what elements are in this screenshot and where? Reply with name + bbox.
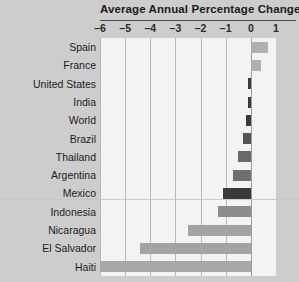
bar-row: Spain [0, 38, 299, 56]
bar [251, 60, 261, 71]
bar [248, 78, 251, 89]
category-label: France [1, 56, 96, 74]
x-tick-label: –6 [94, 22, 106, 34]
bar [218, 206, 251, 217]
chart-title: Average Annual Percentage Change [100, 3, 296, 15]
category-label: Thailand [1, 148, 96, 166]
x-tick-label: –4 [144, 22, 156, 34]
x-axis-tick-labels: –6–5–4–3–2–101 [0, 22, 299, 37]
bar [246, 115, 251, 126]
bar [233, 170, 251, 181]
bar [251, 42, 269, 53]
x-tick-label: –1 [220, 22, 232, 34]
bar [238, 151, 251, 162]
title-underline [100, 20, 296, 21]
category-label: Spain [1, 38, 96, 56]
category-label: Nicaragua [1, 221, 96, 239]
bottom-margin-band [0, 276, 299, 282]
category-label: El Salvador [1, 239, 96, 257]
bar [223, 188, 251, 199]
bar-row: World [0, 111, 299, 129]
x-tick-label: 0 [248, 22, 254, 34]
x-tick-label: –3 [170, 22, 182, 34]
bar-row: Brazil [0, 130, 299, 148]
bar-row: United States [0, 75, 299, 93]
bar-row: Indonesia [0, 203, 299, 221]
bar-row: India [0, 93, 299, 111]
horizontal-guide-line [0, 199, 299, 200]
bar [188, 225, 251, 236]
bar-rows: SpainFranceUnited StatesIndiaWorldBrazil… [0, 38, 299, 276]
bar-row: Nicaragua [0, 221, 299, 239]
bar-row: Thailand [0, 148, 299, 166]
category-label: World [1, 111, 96, 129]
bar-row: Argentina [0, 166, 299, 184]
x-tick-label: 1 [273, 22, 279, 34]
x-tick-label: –5 [119, 22, 131, 34]
chart-figure: Average Annual Percentage Change –6–5–4–… [0, 0, 299, 282]
bar [100, 261, 251, 272]
bar-row: El Salvador [0, 239, 299, 257]
bar [243, 133, 251, 144]
category-label: Brazil [1, 130, 96, 148]
bar-row: France [0, 56, 299, 74]
category-label: Indonesia [1, 203, 96, 221]
bar-row: Haiti [0, 258, 299, 276]
x-tick-label: –2 [195, 22, 207, 34]
bar-row: Mexico [0, 184, 299, 202]
category-label: Haiti [1, 258, 96, 276]
category-label: Argentina [1, 166, 96, 184]
bar [248, 97, 251, 108]
category-label: India [1, 93, 96, 111]
bar [140, 243, 251, 254]
category-label: United States [1, 75, 96, 93]
category-label: Mexico [1, 184, 96, 202]
